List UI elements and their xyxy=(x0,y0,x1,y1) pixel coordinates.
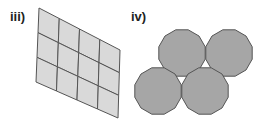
parallelogram-grid xyxy=(36,8,120,118)
dodecagon xyxy=(135,68,181,114)
dodecagon xyxy=(182,68,228,114)
figures-canvas xyxy=(0,0,264,127)
dodecagon-group xyxy=(135,30,252,114)
